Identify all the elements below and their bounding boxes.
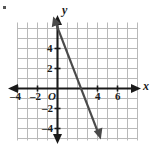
y-tick-label-minus2: –2 <box>42 103 53 114</box>
graph-canvas <box>0 0 151 148</box>
y-tick-label-2: 2 <box>47 63 53 74</box>
x-tick-label-minus2: –2 <box>30 91 41 102</box>
x-tick-label-6: 6 <box>115 91 121 102</box>
y-tick-label-minus4: –4 <box>42 123 53 134</box>
x-tick-label-minus4: –4 <box>10 91 21 102</box>
x-axis-label: x <box>143 80 149 92</box>
y-tick-label-4: 4 <box>47 43 53 54</box>
x-tick-label-4: 4 <box>95 91 101 102</box>
coordinate-plane-figure: –4 –2 4 6 4 2 –2 –4 O x y <box>0 0 151 148</box>
origin-label: O <box>48 91 56 102</box>
y-axis-label: y <box>62 4 67 16</box>
